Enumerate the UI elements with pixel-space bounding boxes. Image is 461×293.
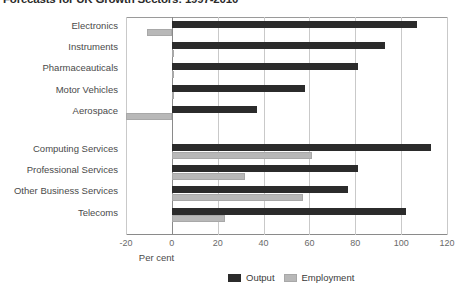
bar-chart: Forecasts for UK Growth Sectors: 1997-20…	[0, 0, 461, 293]
category-label: Instruments	[68, 41, 118, 52]
legend-label: Output	[246, 272, 275, 283]
category-label: Other Business Services	[14, 185, 118, 196]
x-tick-120: 120	[439, 238, 454, 248]
bar-employment	[172, 50, 174, 57]
legend-swatch-employment	[284, 274, 297, 282]
x-tick-100: 100	[394, 238, 409, 248]
bar-row	[126, 208, 447, 229]
x-tick-60: 60	[304, 238, 314, 248]
x-tick-0: 0	[169, 238, 174, 248]
bar-output	[172, 106, 257, 113]
bar-employment	[172, 152, 312, 159]
bar-row	[126, 106, 447, 127]
bar-row	[126, 21, 447, 42]
plot-area	[126, 17, 447, 235]
legend-item-employment: Employment	[284, 272, 355, 283]
legend-item-output: Output	[228, 272, 275, 283]
bar-employment	[172, 71, 174, 78]
category-label: Computing Services	[33, 143, 118, 154]
bar-row	[126, 186, 447, 207]
bar-employment	[172, 173, 245, 180]
bar-row	[126, 165, 447, 186]
bar-output	[172, 144, 431, 151]
chart-legend: OutputEmployment	[228, 272, 354, 283]
bar-rows	[126, 17, 447, 235]
x-axis-title-text: Per cent	[139, 252, 174, 263]
category-axis-labels: ElectronicsInstrumentsPharmaceauticalsMo…	[0, 17, 122, 235]
bar-employment	[172, 92, 174, 99]
bar-output	[172, 208, 406, 215]
category-label: Motor Vehicles	[56, 84, 118, 95]
x-tick-20: 20	[213, 238, 223, 248]
category-label: Pharmaceauticals	[42, 62, 118, 73]
category-label: Professional Services	[27, 164, 118, 175]
legend-label: Employment	[302, 272, 355, 283]
bar-output	[172, 42, 385, 49]
bar-row	[126, 42, 447, 63]
bar-employment	[147, 29, 172, 36]
chart-title: Forecasts for UK Growth Sectors: 1997-20…	[3, 0, 238, 5]
bar-row	[126, 85, 447, 106]
category-label: Electronics	[72, 20, 118, 31]
x-axis-tick-labels: -20020406080100120	[0, 238, 461, 252]
x-tick--20: -20	[119, 238, 132, 248]
x-axis-title: Per cent	[0, 252, 461, 263]
bar-output	[172, 186, 349, 193]
bar-row	[126, 144, 447, 165]
x-tick-40: 40	[259, 238, 269, 248]
gridline-120	[447, 17, 448, 235]
x-tick-80: 80	[350, 238, 360, 248]
bar-employment	[172, 194, 303, 201]
category-label: Telecoms	[78, 207, 118, 218]
bar-employment	[126, 113, 172, 120]
bar-output	[172, 21, 417, 28]
bar-output	[172, 63, 358, 70]
legend-swatch-output	[228, 274, 241, 282]
bar-output	[172, 85, 305, 92]
category-label: Aerospace	[73, 105, 118, 116]
bar-row	[126, 63, 447, 84]
bar-output	[172, 165, 358, 172]
bar-employment	[172, 215, 225, 222]
